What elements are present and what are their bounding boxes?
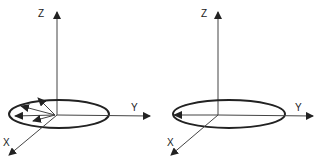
x-axis-label: X <box>167 137 174 148</box>
x-axis-label: X <box>3 137 10 148</box>
y-axis-label: Y <box>131 102 138 113</box>
z-axis-label: Z <box>201 8 207 19</box>
diagram-canvas: Z Y X Z Y X <box>0 0 314 165</box>
ellipse <box>173 100 285 128</box>
y-axis <box>57 115 150 116</box>
right-panel: Z Y X <box>167 8 313 155</box>
y-axis-label: Y <box>295 102 302 113</box>
z-axis-label: Z <box>38 8 44 19</box>
vector-arrow <box>15 115 55 116</box>
ellipse <box>9 100 109 128</box>
left-panel: Z Y X <box>3 8 150 155</box>
y-axis <box>218 115 313 116</box>
